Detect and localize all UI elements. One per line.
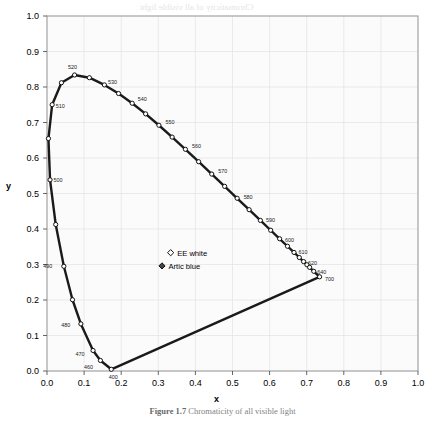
y-axis-label: y (6, 181, 11, 191)
svg-text:600: 600 (285, 237, 294, 243)
svg-text:0.6: 0.6 (263, 378, 276, 388)
svg-text:0.7: 0.7 (300, 378, 313, 388)
svg-text:0.1: 0.1 (26, 331, 39, 341)
svg-text:560: 560 (192, 143, 201, 149)
svg-text:480: 480 (61, 322, 70, 328)
artic-blue-label: Artic blue (169, 262, 201, 271)
svg-text:0.0: 0.0 (26, 366, 39, 376)
chromaticity-plot: 0.00.10.20.30.40.50.60.70.80.91.00.00.10… (0, 0, 445, 424)
svg-text:700: 700 (325, 276, 334, 282)
svg-text:590: 590 (266, 217, 275, 223)
svg-text:0.2: 0.2 (26, 295, 39, 305)
svg-text:0.9: 0.9 (26, 47, 39, 57)
caption-number: Figure 1.7 (150, 406, 187, 416)
svg-text:0.3: 0.3 (26, 260, 39, 270)
svg-text:470: 470 (76, 351, 85, 357)
figure-caption: Figure 1.7 Chromaticity of all visible l… (0, 406, 445, 416)
svg-text:0.6: 0.6 (26, 153, 39, 163)
caption-text: Chromaticity of all visible light (188, 406, 295, 416)
svg-text:0.9: 0.9 (375, 378, 388, 388)
svg-text:530: 530 (108, 79, 117, 85)
svg-text:0.7: 0.7 (26, 118, 39, 128)
svg-text:0.3: 0.3 (152, 378, 165, 388)
svg-text:1.0: 1.0 (26, 11, 39, 21)
svg-text:0.8: 0.8 (338, 378, 351, 388)
svg-text:460: 460 (84, 364, 93, 370)
chromaticity-figure: Chromaticity of all visible lightand the… (0, 0, 445, 424)
svg-text:0.0: 0.0 (41, 378, 54, 388)
svg-text:400: 400 (109, 374, 118, 380)
svg-text:490: 490 (43, 263, 52, 269)
svg-text:570: 570 (218, 168, 227, 174)
svg-text:610: 610 (299, 249, 308, 255)
svg-text:580: 580 (244, 194, 253, 200)
svg-text:0.5: 0.5 (226, 378, 239, 388)
svg-text:0.4: 0.4 (189, 378, 202, 388)
svg-text:520: 520 (68, 64, 77, 70)
svg-text:0.4: 0.4 (26, 224, 39, 234)
svg-text:550: 550 (165, 119, 174, 125)
svg-text:0.1: 0.1 (78, 378, 91, 388)
svg-text:640: 640 (317, 269, 326, 275)
ee-white-label: EE white (177, 249, 207, 258)
x-axis-label: x (214, 394, 219, 404)
svg-text:0.5: 0.5 (26, 189, 39, 199)
svg-text:510: 510 (56, 103, 65, 109)
svg-text:540: 540 (138, 96, 147, 102)
svg-text:620: 620 (308, 260, 317, 266)
svg-text:500: 500 (54, 177, 63, 183)
svg-text:0.8: 0.8 (26, 82, 39, 92)
svg-text:1.0: 1.0 (412, 378, 425, 388)
